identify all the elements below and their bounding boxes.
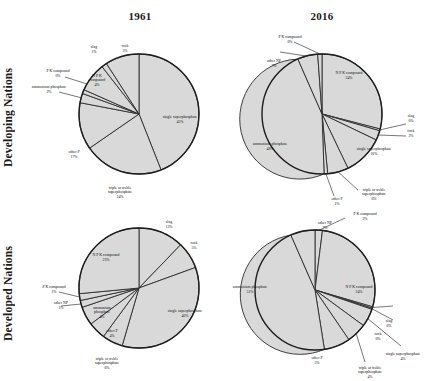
pie-svg-developing-2016 <box>222 24 437 194</box>
label-other-p: other P 17% <box>68 150 79 159</box>
pie-chart-developed-1961: slag 13% rock 5% single superphosphate 4… <box>22 200 222 378</box>
row-label-developing-nations: Developing Nations <box>2 52 14 182</box>
label-other-p: other P 5% <box>311 356 322 365</box>
label-rock: rock 5% <box>191 241 198 250</box>
label-triple-superphosphate: triple or treble superphosphate 6% <box>362 188 386 201</box>
label-pk-compound: P K compound 0% <box>278 35 301 44</box>
label-slag: slag 1% <box>91 45 97 54</box>
label-npk-compound: N P K compound 23% <box>93 253 120 262</box>
label-other-np: other NP 7% <box>267 59 281 68</box>
label-pk-compound: P K compound 2% <box>353 212 376 221</box>
column-header-1961: 1961 <box>100 10 180 22</box>
label-pk-compound: P K compound 1% <box>42 285 65 294</box>
label-slag: slag 0% <box>408 114 414 123</box>
label-single-superphosphate: single superphosphate 40% <box>168 309 202 318</box>
label-npk-compound: N P K compound 24% <box>336 71 363 80</box>
label-other-np: other NP 1% <box>54 301 68 310</box>
figure-panel: 1961 2016 Developing Nations Developed N… <box>0 0 442 381</box>
label-pk-compound: P K compound 0% <box>46 69 69 78</box>
row-label-developed-nations: Developed Nations <box>2 228 14 358</box>
pie-chart-developing-1961: single superphosphate 45% triple or treb… <box>22 24 222 194</box>
column-header-2016: 2016 <box>282 10 362 22</box>
label-npk-compound: N P K compound 4% <box>89 74 105 87</box>
label-npk-compound: N P K compound 24% <box>346 285 373 294</box>
label-triple-superphosphate: triple or treble superphosphate 4% <box>358 366 382 379</box>
label-other-np: other NP 7% <box>318 221 332 230</box>
label-triple-superphosphate: triple or treble superphosphate 6% <box>95 357 119 370</box>
label-rock: rock 5% <box>122 44 129 53</box>
pie-chart-developing-2016: P K compound 0% other NP 7% N P K compou… <box>222 24 437 194</box>
label-rock: rock 2% <box>408 129 415 138</box>
label-single-superphosphate: single superphosphate 4% <box>386 352 420 361</box>
label-rock: rock 0% <box>375 332 382 341</box>
label-ammonium-phosphate: ammonium phosphate 4% <box>93 306 111 319</box>
label-triple-superphosphate: triple or treble superphosphate 24% <box>108 186 132 199</box>
label-ammonium-phosphate: ammonium phosphate 51% <box>233 285 267 294</box>
pie-chart-developed-2016: P K compound 2% other NP 7% N P K compou… <box>222 200 437 378</box>
label-single-superphosphate: single superphosphate 45% <box>163 115 197 124</box>
label-other-p: other P 4% <box>106 329 117 338</box>
label-ammonium-phosphate: ammonium phosphate 48% <box>253 142 287 151</box>
label-slag: slag 13% <box>165 220 172 229</box>
label-single-superphosphate: single superphosphate 10% <box>357 147 391 156</box>
label-ammonium-phosphate: ammonium phosphate 2% <box>32 85 66 94</box>
label-slag: slag 0% <box>386 319 392 328</box>
